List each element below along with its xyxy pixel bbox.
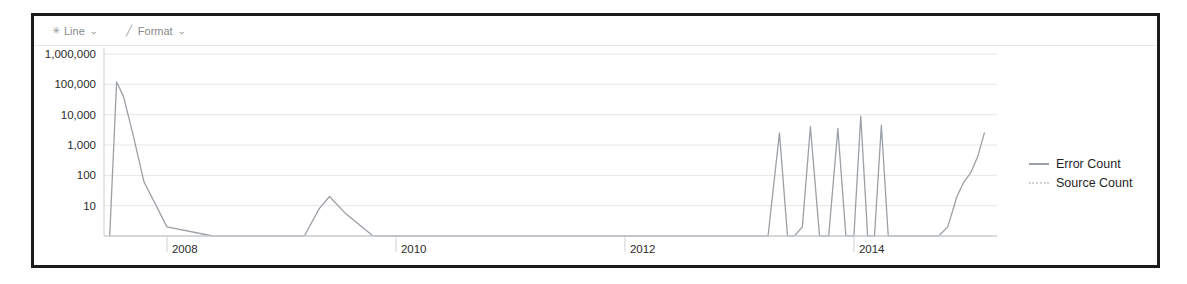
x-tick-label: 2010 [401,243,427,255]
format-paint-icon: ╱ [124,25,135,36]
chart-panel: ✳ Line ⌄ ╱ Format ⌄ 1,000,000100,00010,0… [31,13,1160,268]
chevron-down-icon: ⌄ [177,26,187,36]
chevron-down-icon: ⌄ [89,26,99,36]
y-tick-label: 1,000 [67,139,96,151]
y-tick-label: 100 [77,169,96,181]
line-chart-icon: ✳ [50,25,61,36]
format-label: Format [138,25,173,37]
y-tick-label: 1,000,000 [45,48,96,60]
x-axis-title: _time [534,264,565,268]
chart-area: 1,000,000100,00010,0001,00010010 2008201… [34,46,1157,265]
grid-lines [104,54,997,206]
format-button[interactable]: ╱ Format ⌄ [124,25,186,37]
y-tick-label: 10,000 [61,109,96,121]
chart-plot[interactable]: 1,000,000100,00010,0001,00010010 2008201… [34,46,1157,268]
legend-swatch-error-count [1029,163,1049,165]
x-tick-label: 2008 [172,243,198,255]
chart-legend: Error Count Source Count [1029,154,1159,192]
line-chart-type-label: Line [64,25,85,37]
line-chart-type-button[interactable]: ✳ Line ⌄ [50,25,98,37]
legend-label-error-count: Error Count [1056,157,1121,171]
y-axis-tick-labels: 1,000,000100,00010,0001,00010010 [45,48,96,212]
x-axis-tick-labels: 2008201020122014 [172,243,885,255]
legend-item-source-count[interactable]: Source Count [1029,173,1159,192]
screenshot-root: ✳ Line ⌄ ╱ Format ⌄ 1,000,000100,00010,0… [0,0,1187,284]
x-tick-label: 2012 [630,243,656,255]
legend-label-source-count: Source Count [1056,176,1132,190]
y-tick-label: 10 [83,200,96,212]
series-lines [110,82,992,236]
chart-toolbar: ✳ Line ⌄ ╱ Format ⌄ [34,16,1157,46]
legend-swatch-source-count [1029,182,1049,184]
y-tick-label: 100,000 [54,78,96,90]
legend-item-error-count[interactable]: Error Count [1029,154,1159,173]
series-line [110,82,985,236]
x-tick-label: 2014 [859,243,885,255]
